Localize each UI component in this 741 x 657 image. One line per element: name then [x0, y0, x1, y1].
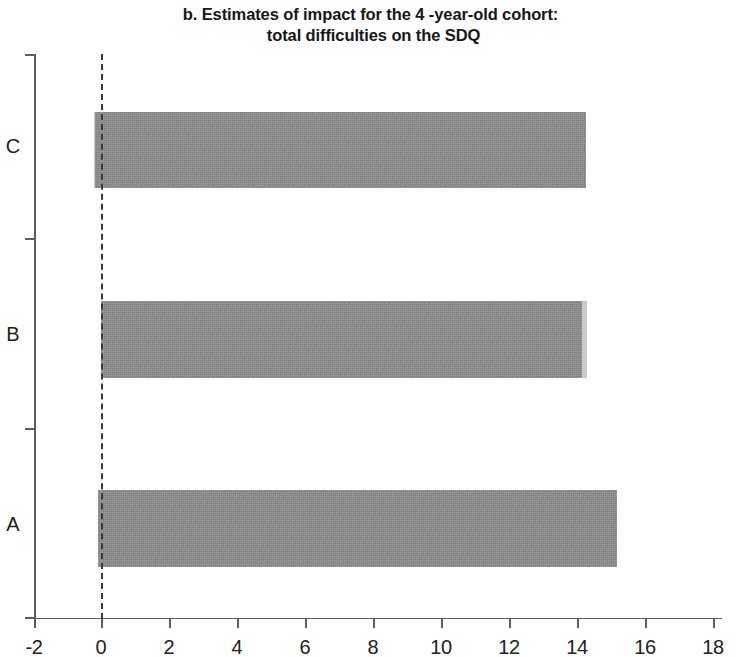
x-axis-tick-label: 14 — [547, 636, 607, 657]
x-axis-tick — [373, 619, 375, 628]
x-axis-tick-label: -2 — [4, 636, 64, 657]
y-axis-label-c: C — [0, 135, 26, 158]
y-axis-label-a: A — [0, 513, 26, 536]
x-axis-tick — [645, 619, 647, 628]
bar-chart: b. Estimates of impact for the 4 -year-o… — [0, 0, 741, 657]
chart-title: b. Estimates of impact for the 4 -year-o… — [0, 4, 741, 46]
x-axis-tick-label: 0 — [71, 636, 131, 657]
x-axis-tick — [577, 619, 579, 628]
x-axis-tick — [34, 619, 36, 628]
y-axis-tick — [25, 238, 34, 240]
x-axis-tick-label: 16 — [615, 636, 675, 657]
x-axis-tick-label: 6 — [275, 636, 335, 657]
y-axis-tick — [25, 428, 34, 430]
bar-b — [101, 301, 584, 378]
x-axis-tick — [509, 619, 511, 628]
bar-b-right-edge — [582, 301, 587, 378]
y-axis-label-b: B — [0, 323, 26, 346]
x-axis-tick-label: 8 — [343, 636, 403, 657]
x-axis-tick — [305, 619, 307, 628]
plot-area: C B A -2 0 2 4 6 8 10 12 14 16 18 — [34, 54, 722, 619]
y-axis-tick — [25, 54, 34, 56]
x-axis-tick — [169, 619, 171, 628]
chart-title-line-2: total difficulties on the SDQ — [0, 25, 741, 46]
x-axis-tick-label: 4 — [207, 636, 267, 657]
x-axis-line — [34, 618, 722, 620]
chart-title-line-1: b. Estimates of impact for the 4 -year-o… — [0, 4, 741, 25]
y-axis-tick — [25, 617, 34, 619]
x-axis-tick — [237, 619, 239, 628]
zero-reference-line — [101, 54, 103, 619]
x-axis-tick-label: 10 — [411, 636, 471, 657]
bar-a — [98, 490, 617, 567]
x-axis-tick-label: 12 — [479, 636, 539, 657]
bar-c — [95, 112, 586, 188]
x-axis-tick — [441, 619, 443, 628]
x-axis-tick-label: 18 — [683, 636, 741, 657]
x-axis-tick — [713, 619, 715, 628]
x-axis-tick — [101, 619, 103, 628]
x-axis-tick-label: 2 — [139, 636, 199, 657]
y-axis-line — [34, 54, 36, 619]
